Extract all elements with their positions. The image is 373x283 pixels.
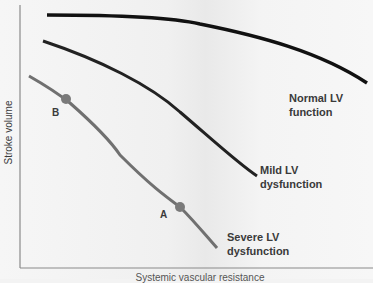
x-axis-label: Systemic vascular resistance (110, 272, 290, 283)
point-b-marker (61, 94, 71, 104)
mild-lv-label-line2: dysfunction (260, 177, 322, 191)
severe-lv-curve (29, 76, 217, 248)
point-b-label: B (52, 106, 59, 120)
y-axis-label: Stroke volume (3, 93, 14, 173)
normal-lv-label-line1: Normal LV (289, 91, 343, 105)
severe-lv-label: Severe LV dysfunction (227, 230, 289, 258)
normal-lv-curve (47, 15, 367, 83)
severe-lv-label-line2: dysfunction (227, 244, 289, 258)
normal-lv-label-line2: function (289, 105, 343, 119)
point-a-marker (175, 202, 185, 212)
normal-lv-label: Normal LV function (289, 91, 343, 119)
mild-lv-label-line1: Mild LV (260, 163, 322, 177)
severe-lv-label-line1: Severe LV (227, 230, 289, 244)
point-a-label: A (160, 208, 167, 222)
mild-lv-label: Mild LV dysfunction (260, 163, 322, 191)
